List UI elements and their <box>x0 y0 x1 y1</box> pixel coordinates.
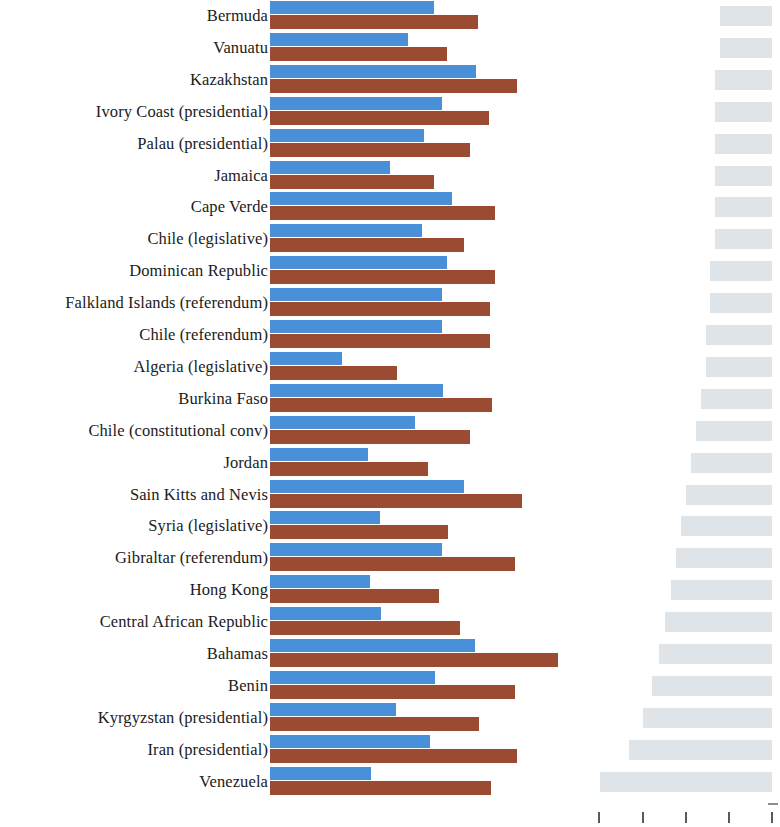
bar-series-blue <box>270 703 396 716</box>
chart-row: Algeria (legislative) <box>0 351 580 383</box>
gray-bar-row <box>580 510 780 542</box>
bar-series-brown <box>270 749 517 763</box>
bar-series-gray <box>710 293 772 313</box>
gray-bar-row <box>580 702 780 734</box>
bar-series-gray <box>715 102 772 122</box>
bar-series-gray <box>681 516 772 536</box>
bar-pair <box>270 65 517 95</box>
bar-series-blue <box>270 575 370 588</box>
row-label: Bermuda <box>207 7 268 24</box>
gray-bar-row <box>580 606 780 638</box>
row-label: Jamaica <box>214 167 268 184</box>
bar-series-gray <box>691 453 772 473</box>
bar-series-blue <box>270 129 424 142</box>
bar-series-brown <box>270 494 522 508</box>
bar-series-brown <box>270 334 490 348</box>
chart-row: Bahamas <box>0 638 580 670</box>
chart-row: Iran (presidential) <box>0 734 580 766</box>
row-label: Dominican Republic <box>129 263 268 280</box>
gray-bar-row <box>580 191 780 223</box>
bar-series-gray <box>643 708 772 728</box>
gray-bar-row <box>580 223 780 255</box>
bar-series-brown <box>270 111 489 125</box>
gray-bar-row <box>580 415 780 447</box>
gray-bar-row <box>580 255 780 287</box>
bar-pair <box>270 129 470 159</box>
bar-series-gray <box>600 772 772 792</box>
bar-pair <box>270 256 495 286</box>
bar-pair <box>270 607 460 637</box>
bar-series-gray <box>715 70 772 90</box>
row-label: Cape Verde <box>191 199 268 216</box>
gray-bar-row <box>580 319 780 351</box>
row-label: Iran (presidential) <box>147 741 268 758</box>
bar-series-gray <box>715 134 772 154</box>
chart-row: Venezuela <box>0 766 580 798</box>
bar-series-brown <box>270 143 470 157</box>
bar-pair <box>270 288 490 318</box>
gray-bar-row <box>580 351 780 383</box>
bar-series-brown <box>270 685 515 699</box>
row-label: Benin <box>228 677 268 694</box>
bar-pair <box>270 543 515 573</box>
axis-cap-mark <box>768 803 778 805</box>
bar-pair <box>270 224 464 254</box>
bar-pair <box>270 320 490 350</box>
chart-row: Bermuda <box>0 0 580 32</box>
bar-series-brown <box>270 15 478 29</box>
bar-pair <box>270 511 448 541</box>
bar-pair <box>270 735 517 765</box>
row-label: Jordan <box>223 454 268 471</box>
chart-row: Jamaica <box>0 160 580 192</box>
row-label: Chile (constitutional conv) <box>88 422 268 439</box>
bar-pair <box>270 352 397 382</box>
bar-pair <box>270 671 515 701</box>
bar-pair <box>270 33 447 63</box>
gray-bars-panel <box>580 0 780 827</box>
gray-bar-row <box>580 670 780 702</box>
bar-series-blue <box>270 639 475 652</box>
chart-row: Central African Republic <box>0 606 580 638</box>
gray-bar-row <box>580 128 780 160</box>
bar-series-gray <box>706 357 772 377</box>
row-label: Hong Kong <box>190 582 268 599</box>
bar-series-brown <box>270 206 495 220</box>
bar-series-brown <box>270 653 558 667</box>
chart-row: Kyrgyzstan (presidential) <box>0 702 580 734</box>
bar-series-gray <box>720 38 772 58</box>
bar-series-blue <box>270 192 452 205</box>
gray-bar-row <box>580 160 780 192</box>
gray-bar-row <box>580 383 780 415</box>
axis-tick <box>642 812 644 823</box>
bar-pair <box>270 161 434 191</box>
gray-bar-row <box>580 0 780 32</box>
bar-series-gray <box>706 325 772 345</box>
bar-series-brown <box>270 621 460 635</box>
bar-pair <box>270 480 522 510</box>
chart-row: Vanuatu <box>0 32 580 64</box>
bar-series-brown <box>270 589 439 603</box>
row-label: Syria (legislative) <box>148 518 268 535</box>
chart-row: Jordan <box>0 447 580 479</box>
bar-series-gray <box>629 740 772 760</box>
bar-series-gray <box>652 676 772 696</box>
bar-series-brown <box>270 525 448 539</box>
bar-series-blue <box>270 480 464 493</box>
row-label: Chile (referendum) <box>139 326 268 343</box>
bar-series-brown <box>270 175 434 189</box>
bar-series-blue <box>270 288 442 301</box>
bar-series-blue <box>270 320 442 333</box>
bar-series-gray <box>701 389 772 409</box>
bar-pair <box>270 639 558 669</box>
gray-bar-row <box>580 542 780 574</box>
bar-series-brown <box>270 366 397 380</box>
chart-figure: BermudaVanuatuKazakhstanIvory Coast (pre… <box>0 0 780 827</box>
bar-series-blue <box>270 511 380 524</box>
bar-series-brown <box>270 717 479 731</box>
bar-series-blue <box>270 735 430 748</box>
row-label: Venezuela <box>199 773 268 790</box>
gray-bar-row <box>580 64 780 96</box>
bar-series-brown <box>270 430 470 444</box>
bar-series-brown <box>270 781 491 795</box>
bar-series-gray <box>715 166 772 186</box>
